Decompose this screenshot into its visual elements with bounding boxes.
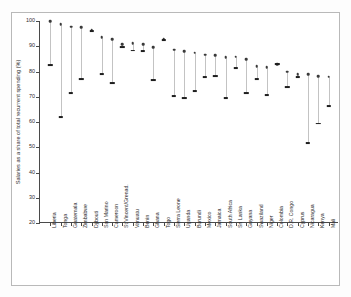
y-tick-label: 60 bbox=[29, 119, 35, 124]
y-tick-label: 80 bbox=[29, 69, 35, 74]
data-point-high bbox=[131, 42, 134, 45]
x-axis-label: Niger bbox=[269, 216, 274, 228]
x-axis-label: Togo bbox=[166, 217, 171, 228]
data-point-high bbox=[286, 70, 289, 73]
data-point-high bbox=[296, 73, 299, 76]
range-line bbox=[81, 27, 82, 79]
chart-figure: Salaries as a share of total recurrent s… bbox=[0, 0, 351, 297]
data-point-high bbox=[245, 58, 248, 61]
x-axis-label: Cyprus bbox=[300, 212, 305, 228]
data-point-low bbox=[326, 105, 330, 107]
range-line bbox=[174, 50, 175, 96]
y-tick-label: 90 bbox=[29, 44, 35, 49]
data-point-low bbox=[162, 39, 166, 41]
x-axis-label: Nicaragua bbox=[310, 204, 315, 228]
x-axis-label: Sierra Leone bbox=[176, 198, 181, 228]
data-point-low bbox=[316, 123, 320, 125]
x-axis-label: Swaziland bbox=[259, 204, 264, 228]
range-line bbox=[195, 53, 196, 91]
y-tick-label: 20 bbox=[29, 220, 35, 225]
data-point-high bbox=[70, 25, 73, 28]
data-point-high bbox=[111, 38, 114, 41]
data-point-low bbox=[213, 75, 217, 77]
y-tick-mark bbox=[36, 198, 40, 199]
y-tick-mark bbox=[36, 173, 40, 174]
x-axis-label: Mexico bbox=[207, 212, 212, 228]
y-tick-mark bbox=[36, 46, 40, 47]
range-line bbox=[257, 66, 258, 79]
y-tick-mark bbox=[36, 72, 40, 73]
data-point-high bbox=[101, 36, 104, 39]
data-point-high bbox=[142, 43, 145, 46]
data-point-high bbox=[266, 66, 269, 69]
x-axis-label: Zimbabwe bbox=[83, 204, 88, 228]
x-axis-label: Uganda bbox=[186, 210, 191, 228]
range-line bbox=[102, 37, 103, 74]
range-line bbox=[153, 47, 154, 80]
data-point-low bbox=[265, 94, 269, 96]
x-axis-label: Cameroon bbox=[114, 204, 119, 228]
y-axis-title: Salaries as a share of total recurrent s… bbox=[13, 21, 24, 223]
data-point-high bbox=[327, 75, 330, 78]
data-point-low bbox=[69, 93, 73, 95]
data-point-low bbox=[131, 50, 135, 52]
range-line bbox=[267, 67, 268, 95]
data-point-low bbox=[151, 79, 155, 81]
plot-area: 2030405060708090100LiberiaTongaGuatemala… bbox=[40, 21, 338, 222]
y-tick-label: 70 bbox=[29, 94, 35, 99]
x-axis-label: Kenya bbox=[320, 213, 325, 228]
range-line bbox=[184, 51, 185, 98]
x-axis-label: Guatemala bbox=[73, 203, 78, 228]
range-line bbox=[112, 39, 113, 82]
range-line bbox=[246, 59, 247, 93]
range-line bbox=[61, 24, 62, 117]
y-tick-mark bbox=[36, 223, 40, 224]
data-point-low bbox=[192, 90, 196, 92]
data-point-low bbox=[48, 64, 52, 66]
y-tick-mark bbox=[36, 122, 40, 123]
data-point-low bbox=[296, 76, 300, 78]
data-point-high bbox=[59, 23, 62, 26]
x-axis-label: Ghana bbox=[155, 212, 160, 228]
data-point-low bbox=[120, 46, 124, 48]
data-point-high bbox=[307, 73, 310, 76]
data-point-low bbox=[203, 76, 207, 78]
data-point-low bbox=[254, 78, 258, 80]
y-tick-label: 30 bbox=[29, 195, 35, 200]
data-point-low bbox=[89, 30, 93, 32]
data-point-high bbox=[173, 48, 176, 51]
x-axis-label: Benin bbox=[145, 215, 150, 228]
y-tick-mark bbox=[36, 97, 40, 98]
data-point-low bbox=[172, 95, 176, 97]
plot-panel: 2030405060708090100LiberiaTongaGuatemala… bbox=[39, 21, 338, 223]
range-line bbox=[226, 57, 227, 98]
x-axis-label: Burundi bbox=[197, 210, 202, 228]
data-point-high bbox=[193, 51, 196, 54]
data-point-high bbox=[235, 56, 238, 59]
y-tick-label: 100 bbox=[26, 18, 35, 23]
data-point-low bbox=[58, 116, 62, 118]
data-point-low bbox=[182, 97, 186, 99]
range-line bbox=[215, 55, 216, 75]
x-axis-label: South Africa bbox=[228, 200, 233, 228]
x-axis-label: Mali bbox=[331, 218, 336, 228]
x-axis-label: Tonga bbox=[63, 214, 68, 228]
x-axis-label: Liberia bbox=[52, 212, 57, 228]
x-axis-label: D.R. Congo bbox=[289, 201, 294, 228]
data-point-low bbox=[223, 97, 227, 99]
data-point-high bbox=[204, 54, 207, 57]
y-tick-mark bbox=[36, 21, 40, 22]
data-point-low bbox=[306, 142, 310, 144]
range-line bbox=[205, 55, 206, 77]
x-axis-label: Colombia bbox=[279, 206, 284, 228]
range-line bbox=[318, 76, 319, 123]
data-point-low bbox=[141, 50, 145, 52]
y-tick-label: 50 bbox=[29, 145, 35, 150]
data-point-high bbox=[255, 65, 258, 68]
range-line bbox=[308, 74, 309, 143]
range-line bbox=[71, 27, 72, 94]
x-axis-label: Jamaica bbox=[217, 209, 222, 228]
data-point-low bbox=[234, 68, 238, 70]
data-point-low bbox=[285, 86, 289, 88]
x-axis-label: Guyana bbox=[248, 210, 253, 228]
